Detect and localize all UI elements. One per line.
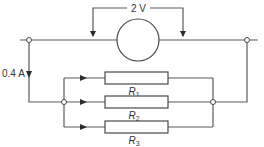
voltage-label: 2 V bbox=[131, 3, 146, 14]
node-parallel-left bbox=[62, 100, 67, 105]
resistor-r1 bbox=[105, 72, 168, 84]
current-arrow-icon bbox=[26, 71, 32, 78]
node-parallel-right bbox=[211, 100, 216, 105]
resistor-r2 bbox=[105, 96, 168, 108]
component-circle bbox=[117, 19, 159, 61]
circuit-diagram: 2 V 0.4 A R1 R2 R3 bbox=[0, 0, 264, 147]
r3-arrow-icon bbox=[80, 124, 87, 130]
left-branch-wire bbox=[29, 40, 64, 102]
r3-label: R3 bbox=[128, 135, 139, 147]
right-branch-wire bbox=[213, 40, 247, 102]
voltmeter-arrow-right-icon bbox=[180, 31, 186, 37]
resistor-r3 bbox=[105, 121, 168, 133]
r2-label: R2 bbox=[128, 110, 139, 122]
node-top-right bbox=[245, 38, 250, 43]
node-top-left bbox=[27, 38, 32, 43]
r1-arrow-icon bbox=[80, 75, 87, 81]
current-label: 0.4 A bbox=[2, 68, 25, 79]
voltmeter-arrow-left-icon bbox=[90, 31, 96, 37]
r2-arrow-icon bbox=[80, 99, 87, 105]
